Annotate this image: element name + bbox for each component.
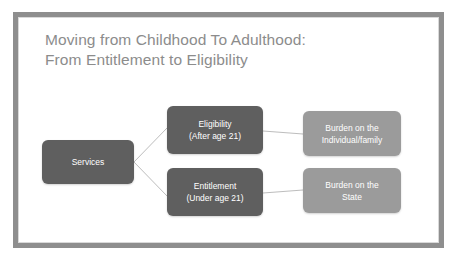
node-burden-individual-line2: Individual/family — [322, 134, 382, 146]
node-eligibility-subtitle: (After age 21) — [189, 130, 241, 142]
node-entitlement-title: Entitlement — [194, 180, 237, 192]
node-burden-state-line2: State — [342, 191, 362, 203]
edge-services-eligibility — [134, 128, 167, 162]
node-burden-individual[interactable]: Burden on the Individual/family — [303, 111, 401, 156]
node-eligibility[interactable]: Eligibility (After age 21) — [167, 106, 263, 154]
node-burden-state-line1: Burden on the — [325, 179, 378, 191]
node-services[interactable]: Services — [42, 140, 134, 184]
node-services-label: Services — [72, 156, 105, 168]
node-burden-individual-line1: Burden on the — [325, 122, 378, 134]
node-entitlement[interactable]: Entitlement (Under age 21) — [167, 168, 263, 216]
edge-eligibility-burden-individual — [263, 131, 303, 134]
edge-entitlement-burden-state — [263, 190, 303, 193]
node-burden-state[interactable]: Burden on the State — [303, 168, 401, 213]
slide-canvas: Moving from Childhood To Adulthood: From… — [0, 0, 457, 268]
node-eligibility-title: Eligibility — [198, 118, 231, 130]
edge-services-entitlement — [134, 162, 167, 196]
node-entitlement-subtitle: (Under age 21) — [186, 192, 243, 204]
